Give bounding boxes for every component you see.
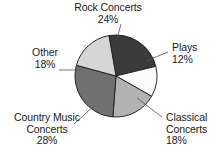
pie-chart-figure: Rock Concerts 24% Plays 12% Classical Co…: [0, 0, 218, 161]
slice-label-classical-concerts-name1: Classical: [166, 112, 218, 124]
slice-label-other-value: 18%: [20, 59, 70, 71]
slice-label-country-music-concerts-value: 28%: [1, 135, 93, 147]
slice-label-rock-concerts: Rock Concerts 24%: [62, 2, 154, 25]
slice-label-country-music-concerts: Country Music Concerts 28%: [1, 112, 93, 147]
slice-label-rock-concerts-name: Rock Concerts: [62, 2, 154, 14]
slice-label-plays-name: Plays: [172, 42, 218, 54]
slice-label-country-music-concerts-name1: Country Music: [1, 112, 93, 124]
slice-label-other: Other 18%: [20, 47, 70, 70]
slice-label-classical-concerts: Classical Concerts 18%: [166, 112, 218, 147]
pie-slice-group: [75, 35, 157, 117]
slice-label-other-name: Other: [20, 47, 70, 59]
slice-label-rock-concerts-value: 24%: [62, 14, 154, 26]
slice-label-plays: Plays 12%: [172, 42, 218, 65]
slice-label-classical-concerts-value: 18%: [166, 135, 218, 147]
slice-label-plays-value: 12%: [172, 54, 218, 66]
